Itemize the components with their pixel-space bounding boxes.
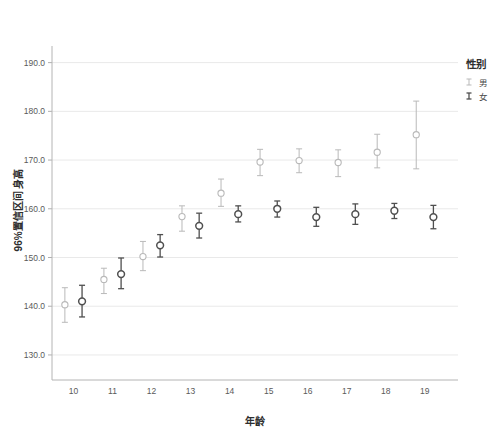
ytick-label: 160.0 xyxy=(24,204,46,214)
xtick-label: 13 xyxy=(186,386,196,396)
xtick-label: 19 xyxy=(420,386,430,396)
data-point-marker xyxy=(391,207,398,214)
legend-item-label: 女 xyxy=(479,92,488,102)
y-axis-title: 96%置信区间 身高 xyxy=(12,169,24,252)
ytick-label: 180.0 xyxy=(24,106,46,116)
xtick-label: 16 xyxy=(303,386,313,396)
data-point-marker xyxy=(140,253,146,259)
xtick-label: 10 xyxy=(69,386,79,396)
xtick-label: 15 xyxy=(264,386,274,396)
ytick-label: 190.0 xyxy=(24,58,46,68)
data-point-marker xyxy=(157,242,164,249)
series-female xyxy=(79,201,437,317)
chart-canvas: 130.0140.0150.0160.0170.0180.0190.010111… xyxy=(0,0,503,439)
data-point-marker xyxy=(179,213,185,219)
data-point-marker xyxy=(218,190,224,196)
ytick-label: 170.0 xyxy=(24,155,46,165)
data-point-marker xyxy=(101,276,107,282)
data-point-marker xyxy=(374,149,380,155)
data-point-marker xyxy=(335,159,341,165)
data-point-marker xyxy=(196,222,203,229)
data-point-marker xyxy=(79,298,86,305)
data-point-marker xyxy=(62,302,68,308)
xtick-label: 14 xyxy=(225,386,235,396)
xtick-label: 11 xyxy=(108,386,117,396)
legend-item-label: 男 xyxy=(479,78,488,88)
ytick-label: 140.0 xyxy=(24,301,46,311)
data-point-marker xyxy=(430,214,437,221)
ytick-label: 130.0 xyxy=(24,350,46,360)
xtick-label: 18 xyxy=(381,386,391,396)
data-point-marker xyxy=(296,157,302,163)
data-point-marker xyxy=(413,132,419,138)
data-point-marker xyxy=(274,205,281,212)
data-point-marker xyxy=(257,159,263,165)
data-point-marker xyxy=(235,211,242,218)
ytick-label: 150.0 xyxy=(24,253,46,263)
data-point-marker xyxy=(118,271,125,278)
legend-title: 性别 xyxy=(466,58,486,70)
data-point-marker xyxy=(313,214,320,221)
xtick-label: 12 xyxy=(147,386,157,396)
xtick-label: 17 xyxy=(342,386,352,396)
error-bar-chart: 130.0140.0150.0160.0170.0180.0190.010111… xyxy=(0,0,503,439)
x-axis-title: 年龄 xyxy=(245,415,266,427)
data-point-marker xyxy=(352,211,359,218)
